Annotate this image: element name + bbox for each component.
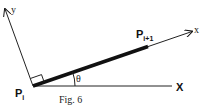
local-x-label: x	[194, 24, 199, 35]
element-segment	[33, 47, 148, 87]
local-y-label: y	[11, 4, 16, 15]
global-x-label: X	[176, 81, 184, 93]
angle-arc	[73, 72, 75, 86]
figure-caption: Fig. 6	[59, 94, 82, 105]
point-pi1-label: Pi+1	[136, 28, 153, 42]
right-angle-marker	[30, 75, 44, 83]
coordinate-diagram: y x X θ Pi Pi+1 Fig. 6	[0, 0, 203, 109]
local-y-axis-arrow	[5, 9, 33, 86]
point-pi-label: Pi	[15, 87, 24, 101]
angle-theta-label: θ	[76, 73, 81, 84]
